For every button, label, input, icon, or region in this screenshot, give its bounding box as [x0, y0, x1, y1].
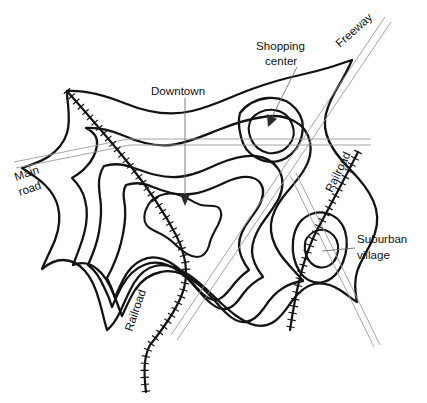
- label-shopping-center-line1: Shopping: [256, 39, 305, 52]
- railroad-tie: [181, 282, 189, 284]
- railroad-group: [64, 88, 362, 392]
- railroad-tie: [141, 384, 149, 385]
- label-shopping-center-line2: center: [265, 54, 297, 67]
- railroad-tie: [182, 276, 190, 277]
- freeway-edge-b: [177, 22, 391, 340]
- label-freeway: Freeway: [333, 10, 375, 50]
- main-road-edge-a: [14, 139, 371, 162]
- main-road-edge-b: [16, 145, 371, 168]
- label-downtown: Downtown: [151, 84, 205, 97]
- label-suburban-village-line1: Suburban: [357, 232, 407, 245]
- shopping-center-leader-line: [272, 67, 297, 117]
- railroad-tie: [286, 326, 294, 327]
- railroad-tie: [141, 363, 149, 364]
- railroad-tie: [142, 391, 150, 392]
- railroad-tie: [181, 262, 189, 263]
- main-road-route[interactable]: [14, 139, 371, 168]
- railroad-tie: [290, 305, 298, 306]
- urban-density-contour-map: Downtown Shopping center Freeway Main ro…: [0, 0, 427, 403]
- label-suburban-village-line2: village: [357, 248, 390, 261]
- railroad-tie: [287, 319, 295, 320]
- railroad-tie: [289, 312, 297, 313]
- contour-ring-2: [72, 116, 311, 322]
- map-canvas: Downtown Shopping center Freeway Main ro…: [0, 0, 427, 403]
